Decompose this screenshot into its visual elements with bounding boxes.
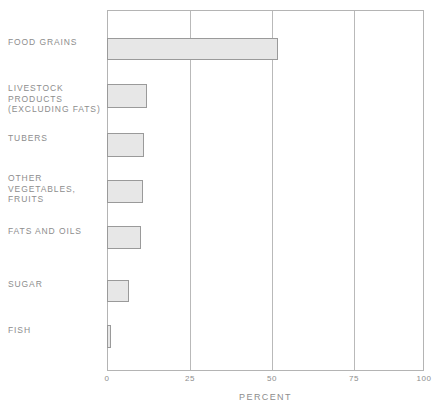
category-label-other-vegetables: OTHER VEGETABLES, FRUITS	[8, 173, 104, 205]
x-axis-title: PERCENT	[107, 392, 424, 402]
xtick-label-100: 100	[416, 374, 431, 383]
gridline-25	[190, 11, 191, 370]
category-label-tubers: TUBERS	[8, 133, 104, 144]
gridline-75	[354, 11, 355, 370]
bar-chart: FOOD GRAINS LIVESTOCK PRODUCTS (EXCLUDIN…	[0, 0, 448, 414]
bar-fish	[107, 325, 111, 348]
xtick-label-75: 75	[349, 374, 359, 383]
bar-other-vegetables	[107, 180, 143, 203]
xtick-label-0: 0	[104, 374, 109, 383]
bar-fats-and-oils	[107, 226, 141, 249]
xtick-label-50: 50	[267, 374, 277, 383]
category-label-livestock-products: LIVESTOCK PRODUCTS (EXCLUDING FATS)	[8, 83, 104, 115]
category-label-sugar: SUGAR	[8, 279, 104, 290]
category-label-food-grains: FOOD GRAINS	[8, 37, 104, 48]
plot-area	[107, 10, 424, 371]
category-label-fish: FISH	[8, 325, 104, 336]
bar-tubers	[107, 133, 144, 157]
bar-sugar	[107, 280, 129, 302]
gridline-50	[272, 11, 273, 370]
bar-livestock-products	[107, 84, 147, 108]
bar-food-grains	[107, 38, 278, 60]
xtick-label-25: 25	[185, 374, 195, 383]
category-label-fats-and-oils: FATS AND OILS	[8, 226, 104, 237]
